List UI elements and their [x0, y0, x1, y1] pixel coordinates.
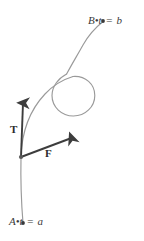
endpoint-b-parameter: t = b — [99, 14, 123, 26]
endpoint-label-b: B•t = b — [88, 15, 123, 26]
tangent-vector-label: T — [10, 124, 17, 135]
tangent-vector-arrow — [21, 103, 23, 157]
endpoint-a-parameter: t = a — [20, 215, 44, 227]
endpoint-label-a: A•t = a — [9, 216, 44, 227]
endpoint-a-name: A — [9, 215, 16, 227]
endpoint-b-name: B — [88, 14, 95, 26]
parametric-curve — [21, 22, 103, 224]
vector-origin-dot — [19, 155, 23, 159]
curve-diagram-svg — [0, 0, 144, 241]
figure-canvas: B•t = b A•t = a T F — [0, 0, 144, 241]
curve-segment-loop — [52, 74, 95, 116]
force-vector-label: F — [45, 148, 52, 159]
curve-segment-upper — [67, 22, 103, 75]
